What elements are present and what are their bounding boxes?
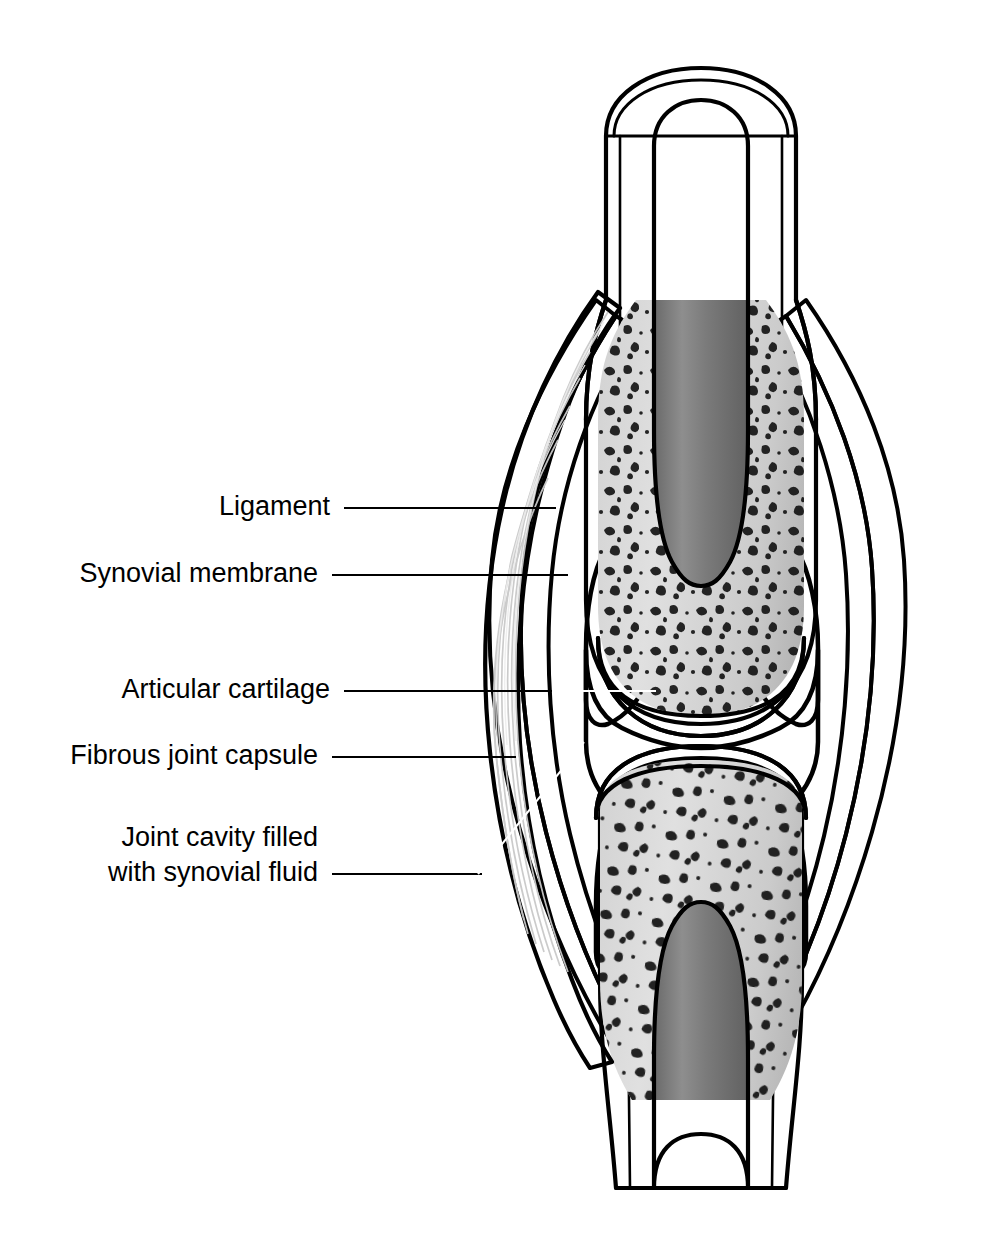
label-fibrous-joint-capsule: Fibrous joint capsule: [70, 740, 318, 770]
label-joint-cavity-line1: Joint cavity filled: [121, 822, 318, 852]
figure-background: [0, 0, 986, 1252]
label-ligament: Ligament: [219, 491, 331, 521]
label-synovial-membrane: Synovial membrane: [79, 558, 318, 588]
synovial-joint-figure: Ligament Synovial membrane Articular car…: [0, 0, 986, 1252]
joint-illustration: Ligament Synovial membrane Articular car…: [0, 0, 986, 1252]
label-articular-cartilage: Articular cartilage: [121, 674, 330, 704]
label-joint-cavity-line2: with synovial fluid: [107, 857, 318, 887]
